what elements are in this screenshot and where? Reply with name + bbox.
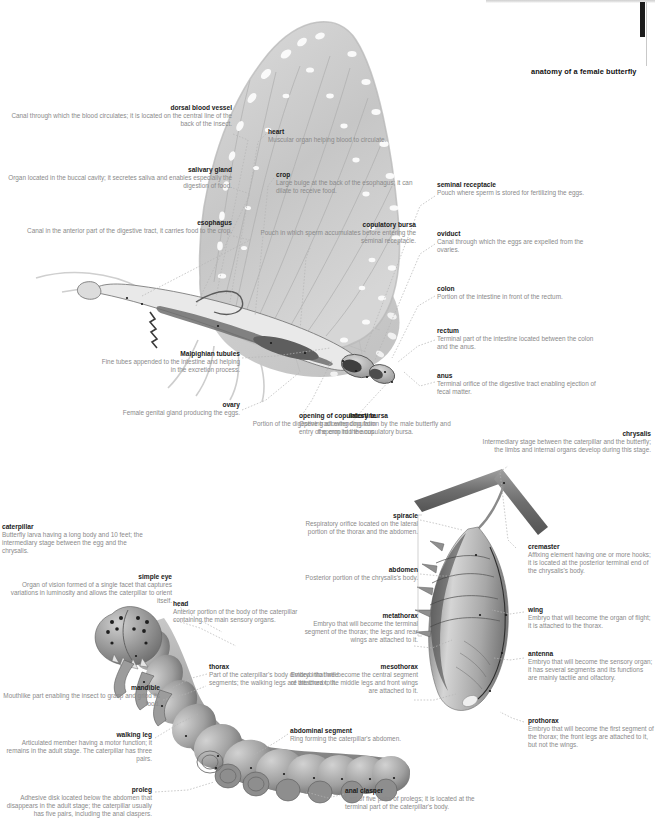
callout-anal-clasper: anal clasperLast of five pairs of proleg… [345, 787, 475, 811]
callout-description: Embryo that will become the sensory orga… [528, 658, 654, 681]
callout-abdomen: abdomenPosterior portion of the chrysali… [288, 566, 418, 582]
callout-description: Large bulge at the back of the esophagus… [276, 179, 426, 194]
callout-term: wing [528, 606, 654, 614]
callout-metathorax: metathoraxEmbryo that will become the te… [288, 612, 418, 643]
callout-term: spiracle [288, 512, 418, 520]
callout-term: anal clasper [345, 787, 475, 795]
callout-term: oviduct [437, 230, 597, 238]
callout-anus: anusTerminal orifice of the digestive tr… [437, 372, 597, 396]
callout-description: Opening allowing copulation by the male … [299, 420, 459, 435]
callout-term: anus [437, 372, 597, 380]
callout-term: abdomen [288, 566, 418, 574]
callout-term: prothorax [528, 717, 654, 725]
callout-description: Fine tubes appended to the intestine and… [96, 358, 240, 373]
callout-term: heart [268, 128, 428, 136]
callout-description: Pouch in which sperm accumulates before … [240, 229, 416, 244]
callout-description: Part of the caterpillar's body divided i… [209, 671, 341, 686]
callout-prothorax: prothoraxEmbryo that will become the fir… [528, 717, 654, 748]
callout-description: Butterfly larva having a long body and 1… [2, 531, 144, 554]
callout-chrysalis: chrysalisIntermediary stage between the … [479, 430, 651, 454]
callout-oviduct: oviductCanal through which the eggs are … [437, 230, 597, 254]
callout-term: copulatory bursa [240, 221, 416, 229]
callout-malpighian-tubules: Malpighian tubulesFine tubes appended to… [96, 350, 240, 374]
callout-description: Embryo that will become the first segmen… [528, 725, 654, 748]
callout-description: Female genital gland producing the eggs. [36, 409, 240, 417]
callout-term: esophagus [0, 219, 232, 227]
callout-description: Affixing element having one or more hook… [528, 551, 654, 574]
callout-cremaster: cremasterAffixing element having one or … [528, 543, 654, 574]
callout-ovary: ovaryFemale genital gland producing the … [36, 401, 240, 417]
callout-term: antenna [528, 650, 654, 658]
callout-heart: heartMuscular organ helping blood to cir… [268, 128, 428, 144]
callout-description: Posterior portion of the chrysalis's bod… [288, 574, 418, 582]
callout-rectum: rectumTerminal part of the intestine loc… [437, 327, 597, 351]
callout-term: colon [437, 285, 597, 293]
callout-term: caterpillar [2, 523, 144, 531]
callout-term: metathorax [288, 612, 418, 620]
window-top-edge [486, 0, 655, 3]
callout-description: Terminal orifice of the digestive tract … [437, 380, 597, 395]
callout-description: Articulated member having a motor functi… [0, 739, 152, 762]
callout-simple-eye: simple eyeOrgan of vision formed of a si… [0, 573, 172, 604]
callout-colon: colonPortion of the intestine in front o… [437, 285, 597, 301]
scrollbar-thumb[interactable] [640, 2, 645, 37]
callout-term: walking leg [0, 731, 152, 739]
callout-description: Last of five pairs of prolegs; it is loc… [345, 795, 475, 810]
callout-thorax: thoraxPart of the caterpillar's body div… [209, 663, 341, 687]
callout-walking-leg: walking legArticulated member having a m… [0, 731, 152, 762]
callout-term: ovary [36, 401, 240, 409]
callout-wing: wingEmbryo that will become the organ of… [528, 606, 654, 630]
callout-head: headAnterior portion of the body of the … [173, 600, 303, 624]
callout-proleg: prolegAdhesive disk located below the ab… [0, 786, 152, 817]
callout-esophagus: esophagusCanal in the anterior part of t… [0, 219, 232, 235]
callout-description: Adhesive disk located below the abdomen … [0, 794, 152, 817]
callout-copulatory-bursa: copulatory bursaPouch in which sperm acc… [240, 221, 416, 245]
diagram-page: anatomy of a female butterfly dorsal blo… [0, 0, 655, 831]
callout-spiracle: spiracleRespiratory orifice located on t… [288, 512, 418, 536]
callout-caterpillar: caterpillarButterfly larva having a long… [2, 523, 144, 554]
callout-term: seminal receptacle [437, 181, 597, 189]
callout-description: Canal in the anterior part of the digest… [0, 227, 232, 235]
callout-term: cremaster [528, 543, 654, 551]
callout-seminal-receptacle: seminal receptaclePouch where sperm is s… [437, 181, 597, 197]
page-title: anatomy of a female butterfly [531, 67, 637, 76]
scrollbar-track[interactable] [646, 2, 647, 66]
callout-term: salivary gland [0, 166, 232, 174]
callout-description: Muscular organ helping blood to circulat… [268, 136, 428, 144]
callout-description: Canal through which the blood circulates… [0, 112, 232, 127]
callout-description: Intermediary stage between the caterpill… [479, 438, 651, 453]
callout-description: Terminal part of the intestine located b… [437, 335, 597, 350]
callout-description: Mouthlike part enabling the insect to gr… [0, 692, 160, 707]
callout-description: Canal through which the eggs are expelle… [437, 238, 597, 253]
callout-description: Portion of the intestine in front of the… [437, 293, 597, 301]
callout-antenna: antennaEmbryo that will become the senso… [528, 650, 654, 681]
callout-term: opening of copulatory bursa [299, 412, 459, 420]
callout-term: thorax [209, 663, 341, 671]
callout-term: Malpighian tubules [96, 350, 240, 358]
callout-term: mandible [0, 684, 160, 692]
callout-term: chrysalis [479, 430, 651, 438]
callout-term: dorsal blood vessel [0, 104, 232, 112]
callout-mandible: mandibleMouthlike part enabling the inse… [0, 684, 160, 708]
callout-term: abdominal segment [290, 727, 420, 735]
callout-description: Pouch where sperm is stored for fertiliz… [437, 189, 597, 197]
callout-abdominal-segment: abdominal segmentRing forming the caterp… [290, 727, 420, 743]
callout-description: Respiratory orifice located on the later… [288, 520, 418, 535]
callout-description: Ring forming the caterpillar's abdomen. [290, 735, 420, 743]
callout-salivary-gland: salivary glandOrgan located in the bucca… [0, 166, 232, 190]
callout-description: Anterior portion of the body of the cate… [173, 608, 303, 623]
callout-dorsal-blood-vessel: dorsal blood vesselCanal through which t… [0, 104, 232, 128]
callout-term: rectum [437, 327, 597, 335]
callout-description: Organ of vision formed of a single facet… [0, 581, 172, 604]
callout-description: Embryo that will become the terminal seg… [288, 620, 418, 643]
callout-term: proleg [0, 786, 152, 794]
chrysalis-branch [414, 469, 554, 535]
callout-description: Organ located in the buccal cavity; it s… [0, 174, 232, 189]
callout-opening-of-copulatory-bursa: opening of copulatory bursaOpening allow… [299, 412, 459, 436]
callout-term: head [173, 600, 303, 608]
callout-term: crop [276, 171, 426, 179]
callout-description: Embryo that will become the organ of fli… [528, 614, 654, 629]
callout-term: simple eye [0, 573, 172, 581]
callout-crop: cropLarge bulge at the back of the esoph… [276, 171, 426, 195]
